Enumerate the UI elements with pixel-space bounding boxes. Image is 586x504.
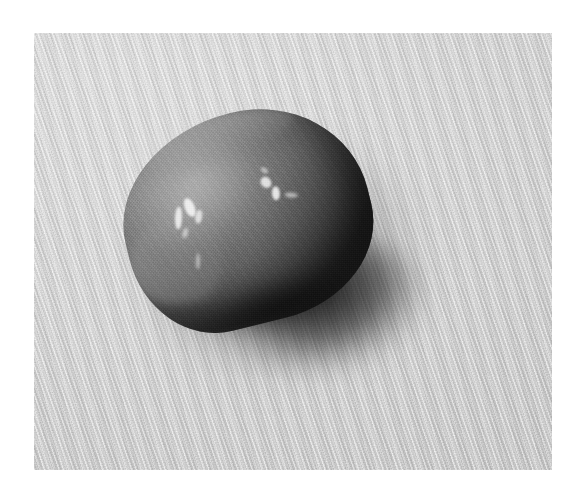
photograph-plate — [34, 33, 552, 470]
image-canvas — [0, 0, 586, 504]
specular-highlight-left-5 — [196, 253, 200, 269]
